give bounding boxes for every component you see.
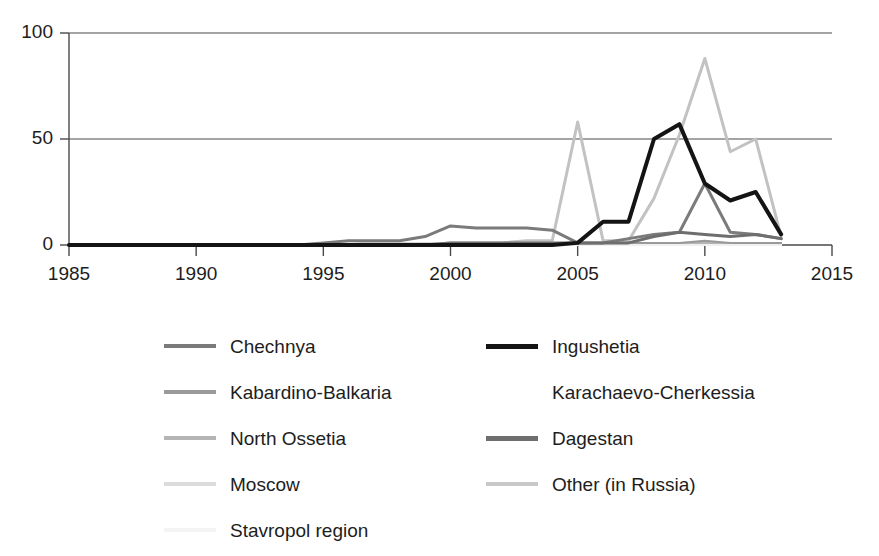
legend-line-swatch-icon bbox=[164, 436, 216, 440]
chart-legend: ChechnyaKabardino-BalkariaNorth OssetiaM… bbox=[150, 324, 850, 554]
legend-line-swatch-icon bbox=[486, 482, 538, 486]
legend-line-swatch-icon bbox=[486, 390, 538, 394]
x-tick-label-1995: 1995 bbox=[278, 263, 368, 285]
legend-item-label: Moscow bbox=[230, 475, 300, 494]
legend-line-swatch-icon bbox=[486, 344, 538, 349]
legend-line-swatch-icon bbox=[486, 436, 538, 441]
legend-line-swatch-icon bbox=[164, 390, 216, 394]
y-tick-label-50: 50 bbox=[0, 127, 53, 149]
x-tick-label-2015: 2015 bbox=[787, 263, 877, 285]
x-tick-label-1985: 1985 bbox=[24, 263, 114, 285]
x-tick-label-2000: 2000 bbox=[406, 263, 496, 285]
legend-item-label: Stavropol region bbox=[230, 521, 368, 540]
legend-item[interactable]: Moscow bbox=[164, 462, 494, 506]
legend-item[interactable]: Karachaevo-Cherkessia bbox=[486, 370, 846, 414]
y-tick-label-100: 100 bbox=[0, 21, 53, 43]
x-tick-label-2005: 2005 bbox=[533, 263, 623, 285]
legend-line-swatch-icon bbox=[164, 528, 216, 532]
legend-item-label: Karachaevo-Cherkessia bbox=[552, 383, 755, 402]
legend-item-label: Ingushetia bbox=[552, 337, 640, 356]
legend-line-swatch-icon bbox=[164, 344, 216, 348]
x-tick-label-1990: 1990 bbox=[151, 263, 241, 285]
legend-item[interactable]: Stavropol region bbox=[164, 508, 494, 552]
legend-item-label: Dagestan bbox=[552, 429, 633, 448]
legend-line-swatch-icon bbox=[164, 482, 216, 486]
legend-item-label: Other (in Russia) bbox=[552, 475, 696, 494]
series-line-chechnya bbox=[69, 184, 781, 245]
y-tick-label-0: 0 bbox=[0, 233, 53, 255]
legend-item-label: Kabardino-Balkaria bbox=[230, 383, 392, 402]
series-line-other-in-russia bbox=[69, 58, 781, 245]
legend-item-label: Chechnya bbox=[230, 337, 316, 356]
legend-item[interactable]: Dagestan bbox=[486, 416, 846, 460]
legend-item[interactable]: Kabardino-Balkaria bbox=[164, 370, 494, 414]
legend-item[interactable]: Ingushetia bbox=[486, 324, 846, 368]
legend-item[interactable]: Other (in Russia) bbox=[486, 462, 846, 506]
line-chart: 050100 1985199019952000200520102015 Chec… bbox=[0, 0, 879, 556]
legend-item-label: North Ossetia bbox=[230, 429, 346, 448]
legend-item[interactable]: Chechnya bbox=[164, 324, 494, 368]
series-line-ingushetia bbox=[69, 124, 781, 245]
x-tick-label-2010: 2010 bbox=[660, 263, 750, 285]
legend-item[interactable]: North Ossetia bbox=[164, 416, 494, 460]
plot-area bbox=[0, 0, 879, 300]
